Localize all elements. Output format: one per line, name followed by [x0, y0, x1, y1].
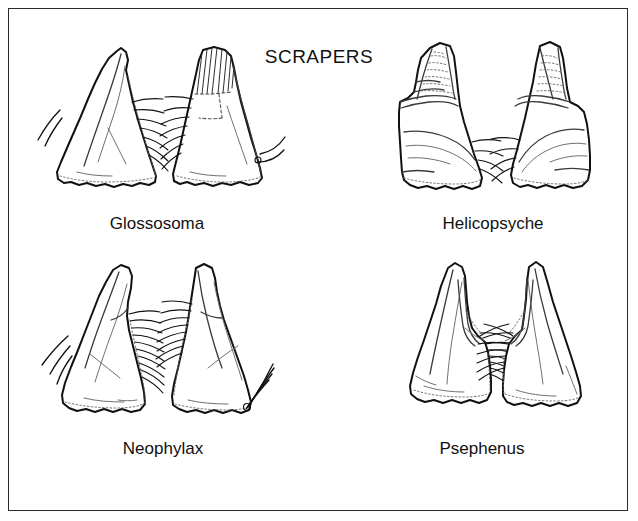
helicopsyche-illustration: [368, 36, 618, 211]
panel-label-helicopsyche: Helicopsyche: [368, 214, 618, 234]
neophylax-right-mandible: [156, 264, 274, 413]
panel-label-neophylax: Neophylax: [28, 439, 298, 459]
psephenus-left-mandible: [410, 263, 516, 403]
glossosoma-left-mandible: [38, 48, 168, 187]
glossosoma-illustration: [22, 36, 292, 211]
panel-glossosoma: Glossosoma: [22, 36, 292, 246]
helicopsyche-right-mandible: [490, 42, 590, 188]
figure-root: SCRAPERS: [0, 0, 638, 521]
panel-label-psephenus: Psephenus: [352, 439, 612, 459]
panel-label-glossosoma: Glossosoma: [22, 214, 292, 234]
helicopsyche-left-mandible: [399, 43, 503, 189]
glossosoma-right-mandible: [160, 47, 285, 186]
neophylax-illustration: [28, 258, 298, 436]
panel-psephenus: Psephenus: [352, 258, 612, 473]
psephenus-illustration: [352, 258, 612, 436]
panel-helicopsyche: Helicopsyche: [368, 36, 618, 246]
neophylax-left-mandible: [42, 265, 165, 412]
psephenus-right-mandible: [477, 262, 581, 406]
panel-neophylax: Neophylax: [28, 258, 298, 473]
